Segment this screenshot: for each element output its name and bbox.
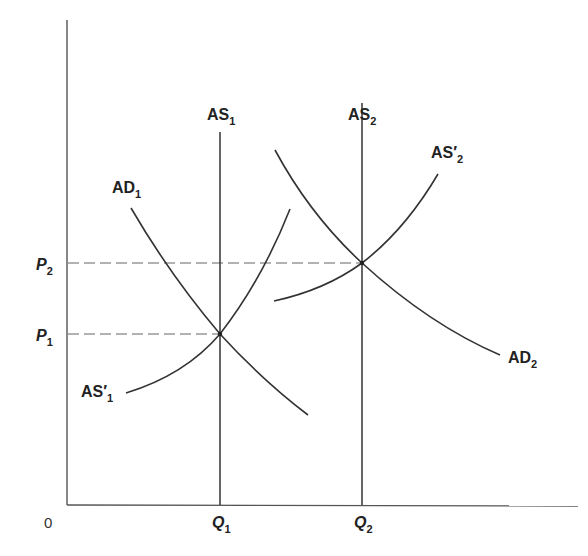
ad-as-diagram: 0 P2 P1 Q1 Q2 AS1 AS2 AD1 AD2 AS′1 AS′2 bbox=[0, 0, 588, 556]
p2-label: P2 bbox=[36, 256, 53, 277]
as1-prime-label: AS′1 bbox=[81, 383, 113, 404]
q1-label: Q1 bbox=[212, 514, 231, 535]
ad2-curve bbox=[275, 150, 500, 355]
equilibrium-point-1 bbox=[218, 332, 222, 336]
q2-label: Q2 bbox=[354, 514, 373, 535]
equilibrium-point-2 bbox=[360, 261, 364, 265]
x-axis bbox=[67, 505, 578, 506]
origin-label: 0 bbox=[44, 514, 52, 531]
as2-prime-curve bbox=[274, 174, 438, 301]
as1-prime-curve bbox=[126, 209, 290, 393]
as2-prime-label: AS′2 bbox=[431, 144, 463, 165]
ad1-label: AD1 bbox=[112, 179, 141, 200]
as1-label: AS1 bbox=[207, 106, 235, 127]
p1-label: P1 bbox=[36, 327, 53, 348]
ad2-label: AD2 bbox=[508, 349, 537, 370]
